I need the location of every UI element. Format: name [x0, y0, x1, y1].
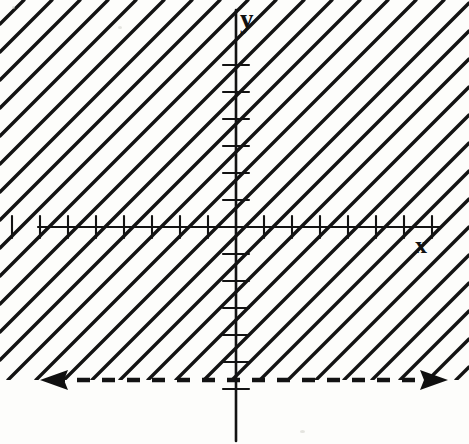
axes-group — [38, 10, 440, 441]
hatch-line — [0, 0, 108, 108]
scan-speck — [12, 6, 15, 9]
hatch-line — [64, 0, 444, 380]
hatch-line — [92, 3, 469, 380]
hatch-line — [0, 0, 276, 276]
hatch-line — [260, 171, 469, 380]
hatch-line — [36, 0, 416, 380]
hatch-line — [372, 283, 469, 380]
hatch-line — [204, 115, 469, 380]
hatch-line — [120, 31, 469, 380]
coordinate-plane-svg — [0, 0, 469, 444]
hatch-line — [0, 0, 52, 52]
hatch-line — [8, 0, 388, 380]
graph-figure: y x — [0, 0, 469, 444]
hatch-line — [344, 255, 469, 380]
x-axis-label: x — [415, 233, 427, 257]
hatch-line — [0, 0, 24, 24]
scan-speck — [118, 26, 122, 29]
hatch-line — [316, 227, 469, 380]
hatch-line — [0, 0, 220, 220]
scan-speck — [300, 430, 305, 433]
hatch-line — [0, 0, 304, 304]
hatch-line — [456, 367, 469, 380]
hatch-line — [0, 0, 332, 332]
hatch-line — [0, 0, 192, 192]
hatch-line — [0, 0, 248, 248]
hatch-line — [0, 0, 136, 136]
y-axis-label: y — [240, 6, 254, 33]
hatch-line — [400, 311, 469, 380]
shaded-region-hatching — [0, 0, 469, 380]
